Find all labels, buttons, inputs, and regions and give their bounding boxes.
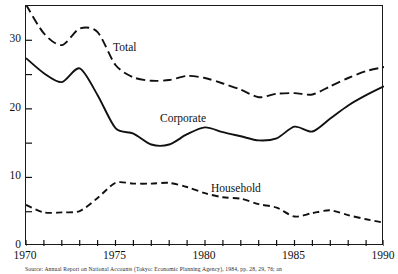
series-line-household xyxy=(26,182,384,223)
plot-frame xyxy=(25,5,383,245)
series-line-corporate xyxy=(26,58,384,146)
y-tick-label: 10 xyxy=(1,171,21,183)
x-tick-label: 1975 xyxy=(95,249,135,261)
x-tick-label: 1980 xyxy=(184,249,224,261)
y-tick-label: 20 xyxy=(1,102,21,114)
x-tick-label: 1985 xyxy=(274,249,314,261)
y-tick-label: 30 xyxy=(1,34,21,46)
x-tick-label: 1990 xyxy=(363,249,398,261)
figure-container: 0102030 19701975198019851990 Total Corpo… xyxy=(0,0,398,274)
source-caption: Source: Annual Report on National Accoun… xyxy=(25,266,383,274)
series-label-household: Household xyxy=(211,182,261,194)
series-label-corporate: Corporate xyxy=(160,112,206,124)
plot-svg xyxy=(26,6,384,246)
series-label-total: Total xyxy=(113,41,136,53)
series-line-total xyxy=(26,6,384,97)
x-tick-label: 1970 xyxy=(5,249,45,261)
